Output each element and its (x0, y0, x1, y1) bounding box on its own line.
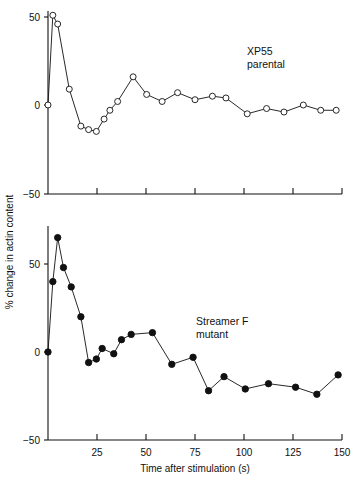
bottom-xticklabel-25: 25 (91, 447, 103, 458)
bottom-xticklabel-50: 50 (140, 447, 152, 458)
x-axis-title: Time after stimulation (s) (140, 463, 250, 474)
bottom-xticklabel-150: 150 (334, 447, 351, 458)
data-point (93, 128, 99, 134)
y-axis-title: % change in actin content (4, 195, 15, 310)
data-point (223, 95, 229, 101)
data-point (78, 123, 84, 129)
figure-root: % change in actin content 50 0 −50 (0, 0, 357, 479)
bottom-panel-x-ticks: 25 50 75 100 125 150 (91, 434, 350, 458)
data-point (55, 21, 61, 27)
data-point (335, 372, 341, 378)
data-point (54, 234, 60, 240)
bottom-panel-label-line2: mutant (196, 328, 228, 340)
data-point (221, 373, 227, 379)
data-point (205, 388, 211, 394)
bottom-xticklabel-125: 125 (285, 447, 302, 458)
data-point (86, 127, 92, 133)
data-point (333, 107, 339, 113)
top-yticklabel-minus50: −50 (23, 189, 40, 200)
data-point (292, 384, 298, 390)
data-point (66, 86, 72, 92)
top-yticklabel-50: 50 (29, 12, 41, 23)
data-point (159, 98, 165, 104)
bottom-xticklabel-75: 75 (189, 447, 201, 458)
bottom-panel-label-line1: Streamer F (196, 315, 249, 327)
data-point (244, 111, 250, 117)
data-point (314, 391, 320, 397)
data-point (128, 331, 134, 337)
data-point (50, 278, 56, 284)
data-point (192, 97, 198, 103)
data-point (78, 314, 84, 320)
top-panel-label-line2: parental (247, 58, 285, 70)
bottom-yticklabel-0: 0 (34, 347, 40, 358)
bottom-series-markers (45, 234, 342, 397)
top-panel-x-ticks (97, 188, 342, 194)
data-point (101, 116, 107, 122)
bottom-yticklabel-50: 50 (29, 259, 41, 270)
data-point (318, 107, 324, 113)
data-point (60, 264, 66, 270)
top-panel-label-line1: XP55 (247, 45, 273, 57)
panel-bottom: 50 0 −50 25 50 75 100 125 150 (23, 226, 351, 474)
bottom-panel-series (45, 234, 342, 397)
data-point (118, 336, 124, 342)
data-point (45, 349, 51, 355)
data-point (99, 345, 105, 351)
data-point (93, 356, 99, 362)
data-point (115, 98, 121, 104)
data-point (242, 386, 248, 392)
data-point (107, 107, 113, 113)
bottom-yticklabel-minus50: −50 (23, 435, 40, 446)
bottom-xticklabel-100: 100 (236, 447, 253, 458)
data-point (265, 380, 271, 386)
actin-content-figure: % change in actin content 50 0 −50 (0, 0, 357, 479)
data-point (111, 351, 117, 357)
data-point (68, 284, 74, 290)
data-point (130, 74, 136, 80)
data-point (264, 106, 270, 112)
top-yticklabel-0: 0 (34, 100, 40, 111)
data-point (144, 91, 150, 97)
data-point (281, 109, 287, 115)
top-panel-series (45, 12, 339, 134)
data-point (149, 329, 155, 335)
top-series-markers (45, 12, 339, 134)
data-point (209, 93, 215, 99)
data-point (169, 361, 175, 367)
bottom-panel-y-ticks: 50 0 −50 (23, 259, 48, 446)
data-point (45, 102, 51, 108)
data-point (85, 359, 91, 365)
bottom-series-line (48, 238, 338, 395)
top-series-line (48, 15, 336, 131)
panel-top: 50 0 −50 XP55 parental (23, 11, 342, 200)
data-point (50, 12, 56, 18)
data-point (175, 90, 181, 96)
top-panel-y-ticks: 50 0 −50 (23, 12, 48, 200)
data-point (190, 354, 196, 360)
data-point (300, 102, 306, 108)
